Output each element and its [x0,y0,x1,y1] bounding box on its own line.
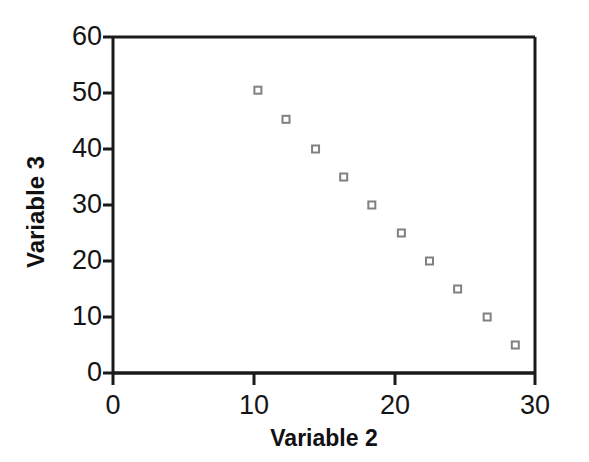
x-tick-label-20: 20 [365,392,425,419]
scatter-plot-figure: 60 50 40 30 20 10 0 0 10 20 30 Variable … [0,0,589,462]
x-axis-tick-labels: 0 10 20 30 [0,0,589,462]
x-tick-label-30: 30 [505,392,565,419]
x-axis-title: Variable 2 [113,425,535,452]
x-tick-label-0: 0 [83,392,143,419]
x-tick-label-10: 10 [224,392,284,419]
y-axis-title: Variable 3 [22,132,50,292]
